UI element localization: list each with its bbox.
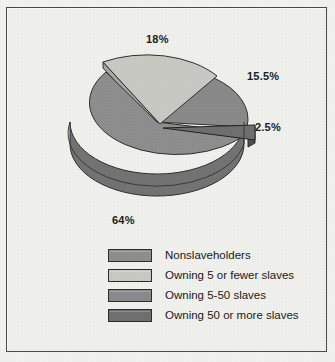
data-label-18-percent: 18%	[146, 33, 169, 45]
data-label-64-percent: 64%	[112, 214, 135, 226]
legend-label-owning-5-or-fewer: Owning 5 or fewer slaves	[165, 269, 294, 282]
legend-swatch-owning-50-or-more	[108, 309, 152, 322]
legend-item-owning-50-or-more: Owning 50 or more slaves	[108, 306, 323, 324]
data-label-15-5-percent: 15.5%	[247, 70, 279, 82]
legend-label-nonslaveholders: Nonslaveholders	[165, 249, 251, 262]
legend-item-owning-5-or-fewer: Owning 5 or fewer slaves	[108, 266, 323, 284]
legend-item-nonslaveholders: Nonslaveholders	[108, 246, 323, 264]
legend-swatch-owning-5-or-fewer	[108, 269, 152, 282]
chart-legend: Nonslaveholders Owning 5 or fewer slaves…	[108, 246, 323, 326]
legend-swatch-owning-5-50	[108, 289, 152, 302]
legend-label-owning-5-50: Owning 5-50 slaves	[165, 289, 266, 302]
legend-label-owning-50-or-more: Owning 50 or more slaves	[165, 309, 299, 322]
data-label-2-5-percent: 2.5%	[255, 121, 281, 133]
legend-swatch-nonslaveholders	[108, 249, 152, 262]
legend-item-owning-5-50: Owning 5-50 slaves	[108, 286, 323, 304]
chart-page: 18% 15.5% 2.5% 64% Nonslaveholders Ownin…	[0, 0, 335, 362]
pie-chart-area: 18% 15.5% 2.5% 64%	[0, 0, 335, 235]
